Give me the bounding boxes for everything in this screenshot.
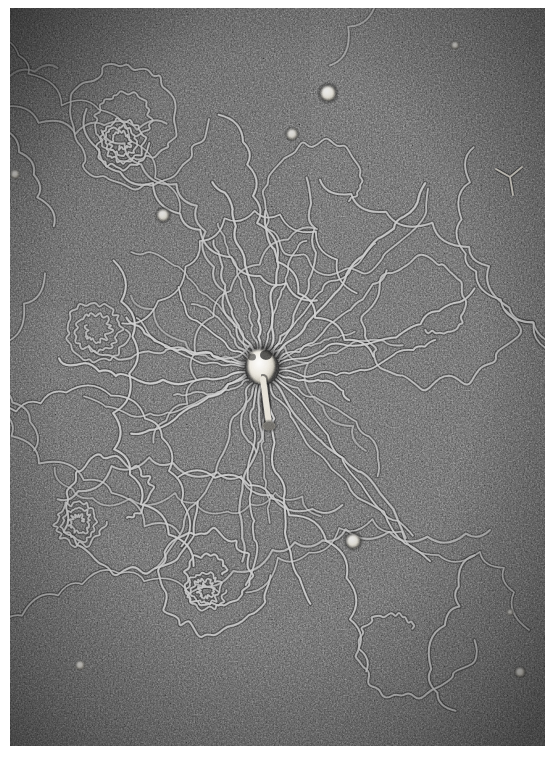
corner-shadow-top-left bbox=[10, 8, 310, 308]
screenshot-root bbox=[0, 0, 555, 761]
electron-micrograph-image bbox=[10, 8, 545, 746]
micrograph-plate bbox=[10, 8, 545, 746]
